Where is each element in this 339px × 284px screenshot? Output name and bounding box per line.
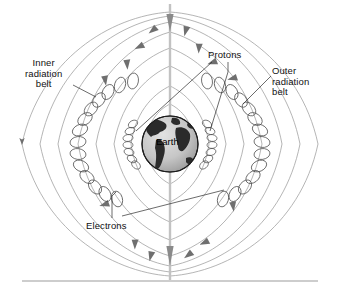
radiation-belt-diagram: Inner radiation belt Outer radiation bel… [0, 0, 339, 284]
label-outer-radiation-belt: Outer radiation belt [272, 66, 309, 98]
label-protons: Protons [208, 50, 241, 61]
label-electrons: Electrons [86, 221, 127, 232]
leader-electrons-right [122, 190, 224, 216]
leader-outer-belt [243, 76, 271, 104]
leader-inner-belt [73, 85, 96, 97]
label-inner-radiation-belt: Inner radiation belt [25, 58, 62, 90]
leader-protons-right [210, 62, 228, 131]
label-earth: Earth [156, 136, 179, 147]
